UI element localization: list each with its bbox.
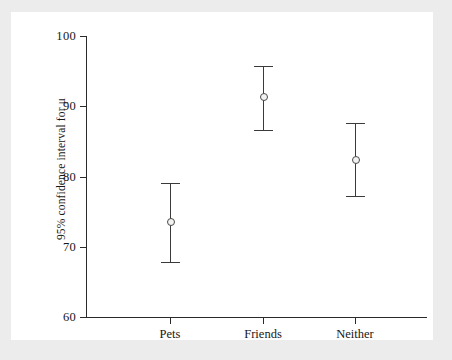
errorbar-cap-lower [254,130,273,131]
errorbar-cap-lower [346,196,365,197]
errorbar-point-marker [167,218,175,226]
y-tick-mark-80 [80,177,86,178]
errorbar-point-marker [260,93,268,101]
y-tick-label-80: 80 [40,171,76,184]
y-tick-label-70: 70 [40,241,76,254]
errorbar-cap-lower [161,262,180,263]
y-tick-label-70-wrap: 70 [40,241,76,253]
y-tick-mark-70 [80,247,86,248]
errorbar-cap-upper [254,66,273,67]
y-tick-label-100-wrap: 100 [40,30,76,42]
y-tick-label-60-wrap: 60 [40,311,76,323]
x-axis-line [86,317,427,318]
y-tick-mark-90 [80,106,86,107]
errorbar-cap-upper [161,183,180,184]
x-tick-mark-pets [170,318,171,324]
y-tick-mark-60 [80,317,86,318]
y-tick-mark-100 [80,36,86,37]
plot-area: 95% confidence interval for μ 100 90 80 … [0,0,452,360]
y-axis-line [86,36,87,318]
y-tick-label-60: 60 [40,311,76,324]
x-tick-label-neither: Neither [295,328,415,341]
y-tick-label-90: 90 [40,100,76,113]
errorbar-point-marker [352,156,360,164]
y-tick-label-80-wrap: 80 [40,171,76,183]
y-tick-label-90-wrap: 90 [40,100,76,112]
errorbar-cap-upper [346,123,365,124]
y-tick-label-100: 100 [40,30,76,43]
x-tick-mark-friends [263,318,264,324]
x-tick-mark-neither [355,318,356,324]
figure-container: 95% confidence interval for μ 100 90 80 … [0,0,452,360]
